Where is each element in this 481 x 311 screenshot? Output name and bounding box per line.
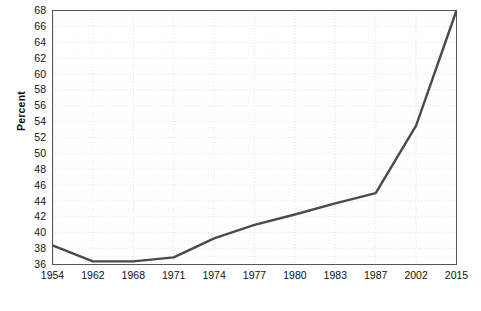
y-axis-tick-label: 36 <box>24 259 46 270</box>
y-axis-tick-label: 42 <box>24 211 46 222</box>
x-axis-tick-label: 1954 <box>33 269 73 281</box>
y-axis-tick-label: 54 <box>24 116 46 127</box>
y-axis-tick-label: 60 <box>24 69 46 80</box>
x-axis-tick-label: 1977 <box>235 269 275 281</box>
x-axis-tick-label: 1974 <box>194 269 234 281</box>
chart-figure: Percent 36384042444648505254565860626466… <box>0 0 481 311</box>
y-axis-tick-label: 40 <box>24 227 46 238</box>
y-axis-tick-label: 56 <box>24 100 46 111</box>
y-axis-tick-label: 64 <box>24 37 46 48</box>
y-axis-tick-labels: 3638404244464850525456586062646668 <box>20 10 46 265</box>
plot-area <box>52 10 457 265</box>
x-axis-tick-label: 1987 <box>356 269 396 281</box>
x-axis-tick-label: 1968 <box>113 269 153 281</box>
y-axis-tick-label: 44 <box>24 196 46 207</box>
y-axis-tick-label: 46 <box>24 180 46 191</box>
x-axis-tick-label: 1971 <box>154 269 194 281</box>
y-axis-tick-label: 50 <box>24 148 46 159</box>
y-axis-tick-label: 58 <box>24 84 46 95</box>
y-axis-tick-label: 62 <box>24 53 46 64</box>
x-axis-tick-label: 1980 <box>275 269 315 281</box>
x-axis-tick-label: 1983 <box>315 269 355 281</box>
y-axis-tick-label: 38 <box>24 243 46 254</box>
y-axis-tick-label: 68 <box>24 5 46 16</box>
y-axis-tick-label: 66 <box>24 21 46 32</box>
vertical-gridlines <box>53 10 457 265</box>
x-axis-tick-label: 1962 <box>73 269 113 281</box>
y-axis-tick-label: 48 <box>24 164 46 175</box>
x-axis-tick-labels: 1954196219681971197419771980198319872002… <box>52 269 457 285</box>
line-chart-svg <box>52 10 457 265</box>
x-axis-tick-label: 2002 <box>396 269 436 281</box>
y-axis-tick-label: 52 <box>24 132 46 143</box>
data-line-series <box>53 11 457 262</box>
x-axis-tick-label: 2015 <box>437 269 477 281</box>
